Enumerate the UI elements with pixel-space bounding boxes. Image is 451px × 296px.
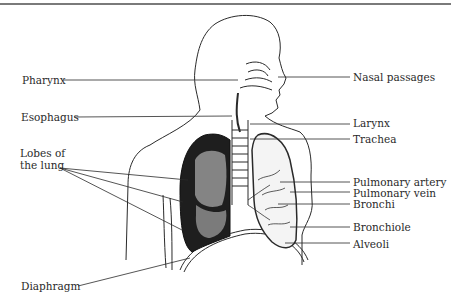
- label-alveoli: Alveoli: [353, 238, 389, 250]
- label-lobes-line2: the lung: [20, 159, 64, 171]
- respiratory-figure: [0, 0, 451, 296]
- label-bronchiole: Bronchiole: [353, 221, 411, 233]
- label-diaphragm: Diaphragm: [21, 280, 80, 292]
- label-esophagus: Esophagus: [21, 111, 79, 123]
- label-larynx: Larynx: [353, 117, 390, 129]
- label-lobes-line1: Lobes of: [20, 147, 65, 159]
- label-bronchi: Bronchi: [353, 198, 395, 210]
- label-trachea: Trachea: [353, 133, 396, 145]
- label-nasal-passages: Nasal passages: [353, 71, 435, 83]
- label-pharynx: Pharynx: [22, 74, 66, 86]
